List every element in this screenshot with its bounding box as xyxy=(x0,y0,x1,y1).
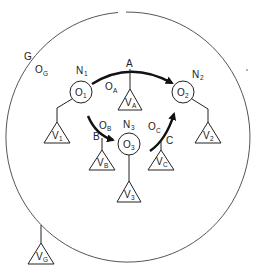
svg-text:A: A xyxy=(132,102,137,109)
node-n1-label: N 1 xyxy=(76,65,88,77)
svg-text:3: 3 xyxy=(131,144,135,151)
edge-a-arrow xyxy=(92,72,172,84)
edge-a-label: A xyxy=(126,58,133,69)
edge-a-object-label: O A xyxy=(105,81,118,94)
svg-text:1: 1 xyxy=(83,92,87,99)
svg-text:V: V xyxy=(36,251,43,262)
svg-text:G: G xyxy=(43,256,48,263)
diagram-canvas: G O G V G A O A V A B O B V B C O xyxy=(0,0,258,275)
svg-text:O: O xyxy=(148,121,156,132)
group-label: G xyxy=(24,51,32,62)
node-n2-label: N 2 xyxy=(192,69,204,81)
svg-text:2: 2 xyxy=(200,74,204,81)
node-n3: N 3 O 3 V 3 xyxy=(117,119,141,202)
svg-text:C: C xyxy=(163,161,168,168)
svg-text:C: C xyxy=(166,135,173,146)
svg-text:O: O xyxy=(123,139,131,150)
svg-text:V: V xyxy=(203,130,210,141)
object-graph-diagram: G O G V G A O A V A B O B V B C O xyxy=(0,0,258,275)
svg-text:N: N xyxy=(76,65,83,76)
edge-c-object-label: O C xyxy=(148,121,161,134)
svg-text:2: 2 xyxy=(210,135,214,142)
svg-text:B: B xyxy=(107,125,111,132)
svg-text:2: 2 xyxy=(185,92,189,99)
svg-text:A: A xyxy=(126,58,133,69)
svg-text:N: N xyxy=(123,119,130,130)
svg-text:A: A xyxy=(113,87,118,94)
svg-text:3: 3 xyxy=(131,194,135,201)
svg-text:V: V xyxy=(125,97,132,108)
svg-text:3: 3 xyxy=(131,124,135,131)
svg-text:O: O xyxy=(177,87,185,98)
node-n1: N 1 O 1 V 1 xyxy=(44,65,92,143)
node-n2-variable-stem xyxy=(192,99,208,122)
edge-b-label: B xyxy=(93,131,100,142)
svg-text:V: V xyxy=(52,130,59,141)
svg-text:V: V xyxy=(124,189,131,200)
svg-text:O: O xyxy=(105,81,113,92)
svg-text:N: N xyxy=(192,69,199,80)
svg-text:O: O xyxy=(35,64,43,75)
edge-b-object-label: O B xyxy=(99,120,111,132)
svg-text:B: B xyxy=(104,162,108,169)
svg-text:B: B xyxy=(93,131,100,142)
group-object-label: O G xyxy=(35,64,48,77)
stray-dot xyxy=(246,69,248,71)
svg-text:V: V xyxy=(156,156,163,167)
svg-text:1: 1 xyxy=(84,70,88,77)
svg-text:G: G xyxy=(43,70,48,77)
edge-c-label: C xyxy=(166,135,173,146)
svg-text:O: O xyxy=(99,120,107,131)
node-n3-label: N 3 xyxy=(123,119,135,131)
svg-text:V: V xyxy=(97,157,104,168)
svg-text:O: O xyxy=(75,87,83,98)
node-n1-variable-stem xyxy=(57,99,72,122)
node-n2: N 2 O 2 V 2 xyxy=(172,69,221,143)
svg-text:1: 1 xyxy=(59,135,63,142)
svg-text:C: C xyxy=(156,127,161,134)
